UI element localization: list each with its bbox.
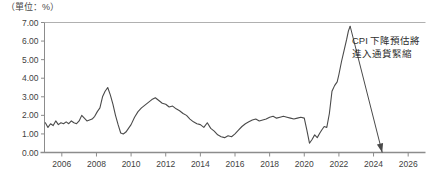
x-tick-label: 2016 — [226, 159, 245, 169]
annotation-text: CPI 下降預估將 進入通貨緊縮 — [352, 34, 434, 60]
x-tick-label: 2020 — [295, 159, 314, 169]
y-axis-ticks: 0.001.002.003.004.005.006.007.00 — [22, 18, 45, 158]
y-tick-label: 2.00 — [22, 110, 39, 120]
y-tick-label: 1.00 — [22, 129, 39, 139]
arrow-head — [377, 143, 383, 153]
x-tick-label: 2006 — [52, 159, 71, 169]
y-tick-label: 3.00 — [22, 92, 39, 102]
x-tick-label: 2026 — [399, 159, 418, 169]
x-tick-label: 2022 — [329, 159, 348, 169]
annotation-line-1: CPI 下降預估將 — [352, 34, 434, 47]
y-tick-label: 6.00 — [22, 36, 39, 46]
cpi-line — [45, 26, 350, 143]
x-tick-label: 2008 — [87, 159, 106, 169]
x-tick-label: 2024 — [364, 159, 383, 169]
x-tick-label: 2014 — [191, 159, 210, 169]
cpi-line-series — [45, 26, 350, 143]
annotation-line-2: 進入通貨緊縮 — [352, 47, 434, 60]
y-tick-label: 5.00 — [22, 55, 39, 65]
chart-svg: 0.001.002.003.004.005.006.007.00 2006200… — [0, 0, 434, 184]
y-tick-label: 4.00 — [22, 73, 39, 83]
chart-plot-area: 0.001.002.003.004.005.006.007.00 2006200… — [0, 0, 434, 184]
x-tick-label: 2010 — [122, 159, 141, 169]
x-tick-label: 2012 — [156, 159, 175, 169]
x-axis-ticks: 2006200820102012201420162018202020222024… — [52, 153, 418, 170]
y-tick-label: 7.00 — [22, 18, 39, 28]
y-tick-label: 0.00 — [22, 148, 39, 158]
chart-container: （單位：%） 0.001.002.003.004.005.006.007.00 … — [0, 0, 434, 184]
x-tick-label: 2018 — [260, 159, 279, 169]
